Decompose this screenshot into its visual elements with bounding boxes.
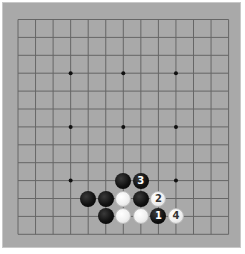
black-stone[interactable] [80, 191, 96, 207]
hoshi-point [174, 125, 178, 129]
white-stone[interactable]: 4 [168, 208, 184, 224]
hoshi-point [174, 179, 178, 183]
black-stone[interactable] [98, 208, 114, 224]
move-number: 3 [137, 176, 144, 186]
go-board[interactable]: 3214 [3, 3, 240, 247]
hoshi-point [174, 71, 178, 75]
black-stone[interactable]: 3 [133, 173, 149, 189]
white-stone[interactable] [133, 208, 149, 224]
move-number: 4 [172, 211, 179, 221]
black-stone[interactable] [98, 191, 114, 207]
hoshi-point [69, 179, 73, 183]
black-stone[interactable]: 1 [150, 208, 166, 224]
hoshi-point [121, 71, 125, 75]
hoshi-point [69, 71, 73, 75]
white-stone[interactable] [115, 208, 131, 224]
black-stone[interactable] [133, 191, 149, 207]
white-stone[interactable] [115, 191, 131, 207]
black-stone[interactable] [115, 173, 131, 189]
move-number: 2 [155, 194, 162, 204]
hoshi-point [69, 125, 73, 129]
hoshi-point [121, 125, 125, 129]
white-stone[interactable]: 2 [150, 191, 166, 207]
move-number: 1 [155, 211, 162, 221]
